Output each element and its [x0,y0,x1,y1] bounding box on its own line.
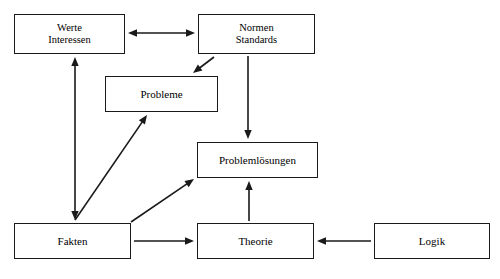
node-normen: NormenStandards [198,14,315,54]
node-werte: WerteInteressen [14,14,125,54]
edge-normen-problemloesungen [244,56,251,139]
node-label: Probleme [140,88,182,101]
node-probleme: Probleme [105,76,218,112]
edge-werte-normen [128,29,195,36]
diagram-canvas: WerteInteressenNormenStandardsProblemePr… [0,0,500,279]
node-label: Werte [57,22,82,34]
node-label: Interessen [48,34,91,46]
edge-werte-fakten [71,57,78,220]
node-theorie: Theorie [197,223,314,259]
node-label: Theorie [238,235,272,248]
node-fakten: Fakten [14,223,131,259]
edge-logik-theorie [317,237,371,244]
node-label: Normen [239,22,273,34]
edge-fakten-problemloesungen [131,179,194,222]
edge-theorie-problemloesungen [245,181,252,221]
node-label: Fakten [58,235,88,248]
edge-normen-probleme [193,57,214,73]
edge-fakten-theorie [134,237,194,244]
node-label: Standards [236,34,277,46]
node-logik: Logik [374,223,490,259]
node-label: Logik [419,235,445,248]
node-problemloesungen: Problemlösungen [197,142,318,178]
node-label: Problemlösungen [219,154,296,167]
edge-fakten-probleme [75,115,147,220]
